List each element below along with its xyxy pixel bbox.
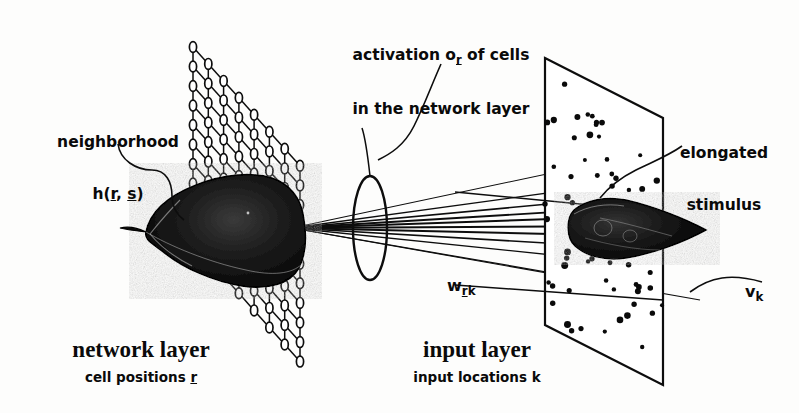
input-layer-title: input layer xyxy=(423,337,531,363)
network-cell xyxy=(235,112,242,123)
input-location-dot xyxy=(648,285,654,291)
input-location-dot xyxy=(627,188,631,192)
network-cell xyxy=(281,339,288,350)
input-location-dot xyxy=(624,312,631,319)
som-architecture-figure: neighborhood h(r, s) activation or of ce… xyxy=(0,0,799,413)
network-cell xyxy=(296,160,303,171)
input-location-dot xyxy=(574,114,580,120)
input-location-dot xyxy=(586,259,590,263)
input-location-dot xyxy=(564,248,571,255)
input-location-dot xyxy=(638,153,642,157)
input-location-dot xyxy=(587,131,594,138)
network-cell xyxy=(251,109,258,120)
input-layer-subtitle: input locations k xyxy=(413,370,540,385)
input-location-dot xyxy=(562,82,567,87)
network-cell xyxy=(281,143,288,154)
input-location-dot xyxy=(654,177,660,183)
network-cell xyxy=(296,298,303,309)
stimulus-line2: stimulus xyxy=(680,197,768,214)
input-location-dot xyxy=(640,345,644,349)
network-cell xyxy=(220,154,227,165)
network-cell xyxy=(189,120,196,131)
input-location-dot xyxy=(648,270,653,275)
network-cell xyxy=(296,278,303,289)
network-layer-subtitle: cell positions r xyxy=(85,370,197,385)
network-cell xyxy=(189,61,196,72)
network-cell xyxy=(266,166,273,177)
network-subtitle-vec-r: r xyxy=(190,369,197,385)
network-cell xyxy=(296,180,303,191)
network-cell xyxy=(235,151,242,162)
input-location-dot xyxy=(604,278,609,283)
network-cell xyxy=(235,92,242,103)
network-cell xyxy=(281,320,288,331)
input-location-dot xyxy=(660,303,664,307)
input-location-dot xyxy=(631,302,636,307)
network-cell xyxy=(205,59,212,70)
input-location-dot xyxy=(561,262,568,269)
input-location-dot xyxy=(612,287,616,291)
neighborhood-line1: neighborhood xyxy=(57,134,179,151)
input-location-dot xyxy=(583,158,587,162)
input-location-dot xyxy=(544,216,550,222)
input-location-dot xyxy=(586,112,591,117)
input-location-dot xyxy=(567,288,572,293)
network-layer-title: network layer xyxy=(72,337,209,363)
input-location-dot xyxy=(564,194,570,200)
input-location-dot xyxy=(603,329,607,333)
input-location-dot xyxy=(605,157,610,162)
activation-line1: activation or of cells xyxy=(353,47,530,67)
activation-suffix: of cells xyxy=(462,46,530,64)
input-location-dot xyxy=(590,114,595,119)
stimulus-line1: elongated xyxy=(680,145,768,162)
network-cell xyxy=(266,322,273,333)
neighborhood-sep: , xyxy=(116,185,127,203)
input-location-dot xyxy=(546,280,550,284)
input-location-dot xyxy=(609,172,614,177)
input-location-dot xyxy=(564,321,571,328)
input-location-dot xyxy=(650,311,655,316)
input-location-dot xyxy=(568,174,573,179)
input-location-dot xyxy=(550,283,555,288)
input-location-dot xyxy=(597,135,601,139)
network-cell xyxy=(205,117,212,128)
network-cell xyxy=(266,146,273,157)
activation-line2: in the network layer xyxy=(353,101,530,118)
input-location-dot xyxy=(564,255,569,260)
network-subtitle-text: cell positions xyxy=(85,369,190,385)
network-cell xyxy=(205,78,212,89)
input-location-dot xyxy=(608,260,613,265)
network-cell xyxy=(220,76,227,87)
network-cell xyxy=(235,288,242,299)
input-location-dot xyxy=(595,173,600,178)
network-cell xyxy=(189,139,196,150)
neighborhood-line2: h(r, s) xyxy=(57,186,179,203)
label-stimulus: elongated stimulus xyxy=(680,110,768,249)
network-cell xyxy=(205,137,212,148)
label-weight-vector: wrk xyxy=(447,277,476,298)
network-cell xyxy=(251,305,258,316)
input-location-dot xyxy=(551,164,556,169)
network-cell xyxy=(281,300,288,311)
input-location-dot xyxy=(551,117,557,123)
activation-prefix: activation o xyxy=(353,46,456,64)
neighborhood-suffix: ) xyxy=(136,185,143,203)
network-cell xyxy=(220,95,227,106)
network-cell xyxy=(189,100,196,111)
label-input-vector: vk xyxy=(745,283,763,304)
input-location-dot xyxy=(639,186,645,192)
network-cell xyxy=(205,156,212,167)
input-location-dot xyxy=(542,201,547,206)
input-location-dot xyxy=(544,120,550,126)
input-location-dot xyxy=(634,282,639,287)
neighborhood-vec-s: s xyxy=(127,185,136,203)
network-cell xyxy=(296,317,303,328)
network-cell xyxy=(296,356,303,367)
input-location-dot xyxy=(572,135,577,140)
network-cell xyxy=(266,303,273,314)
network-cell xyxy=(189,81,196,92)
network-cell xyxy=(220,134,227,145)
input-location-dot xyxy=(617,317,624,324)
network-cell xyxy=(296,337,303,348)
input-location-dot xyxy=(599,120,605,126)
